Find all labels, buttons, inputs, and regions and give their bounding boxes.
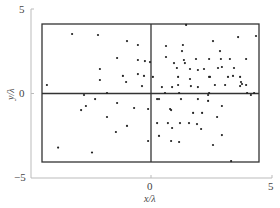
data-point <box>122 75 124 77</box>
data-point <box>170 109 172 111</box>
data-point <box>200 128 202 130</box>
data-point <box>203 68 205 70</box>
data-point <box>212 144 214 146</box>
data-point <box>197 98 199 100</box>
data-point <box>208 58 210 60</box>
data-point <box>165 45 167 47</box>
data-point <box>214 84 216 86</box>
data-point <box>46 84 48 86</box>
data-point <box>57 147 59 149</box>
data-point <box>156 122 158 124</box>
data-point <box>125 81 127 83</box>
data-point <box>197 86 199 88</box>
data-point <box>152 76 154 78</box>
data-point <box>106 92 108 94</box>
data-point <box>126 125 128 127</box>
data-point <box>230 160 232 162</box>
data-point <box>239 76 241 78</box>
data-point <box>183 59 185 61</box>
y-axis-label: y/λ <box>5 88 16 101</box>
data-point <box>209 76 211 78</box>
data-point <box>137 44 139 46</box>
data-point <box>250 94 252 96</box>
data-point <box>156 98 158 100</box>
data-point <box>137 73 139 75</box>
data-point <box>201 112 203 114</box>
data-point <box>212 40 214 42</box>
data-point <box>144 60 146 62</box>
data-point <box>253 92 255 94</box>
data-point <box>241 83 243 85</box>
x-axis-label: x/λ <box>143 193 156 204</box>
data-point <box>176 67 178 69</box>
data-point <box>192 112 194 114</box>
data-point <box>229 58 231 60</box>
data-point <box>245 84 247 86</box>
data-point <box>217 67 219 69</box>
data-point <box>106 116 108 118</box>
x-tick-label-0: 0 <box>147 180 153 192</box>
data-point <box>161 86 163 88</box>
data-point <box>158 135 160 137</box>
data-point <box>94 98 96 100</box>
data-point <box>80 109 82 111</box>
data-point <box>255 35 257 37</box>
data-point <box>99 68 101 70</box>
data-point <box>182 44 184 46</box>
data-point <box>158 98 160 100</box>
data-point <box>232 75 234 77</box>
data-point <box>237 36 239 38</box>
data-point <box>178 92 180 94</box>
data-point <box>143 75 145 77</box>
data-point <box>97 34 99 36</box>
data-point <box>126 40 128 42</box>
y-tick-label-0: 0 <box>19 87 25 99</box>
data-point <box>220 58 222 60</box>
data-point <box>85 105 87 107</box>
data-point <box>91 151 93 153</box>
data-point <box>224 84 226 86</box>
data-point <box>227 76 229 78</box>
annotation-box <box>42 24 259 162</box>
data-point <box>221 105 223 107</box>
data-point <box>219 50 221 52</box>
data-point <box>173 62 175 64</box>
data-point <box>137 59 139 61</box>
data-point <box>185 24 187 26</box>
data-point <box>181 50 183 52</box>
data-point <box>233 67 235 69</box>
data-point <box>208 92 210 94</box>
data-point <box>207 100 209 102</box>
data-point <box>197 69 199 71</box>
data-point <box>167 122 169 124</box>
data-point <box>171 127 173 129</box>
data-point <box>189 68 191 70</box>
data-point <box>141 85 143 87</box>
data-point <box>246 92 248 94</box>
data-point <box>116 57 118 59</box>
data-point <box>170 140 172 142</box>
data-point <box>99 79 101 81</box>
data-point <box>245 58 247 60</box>
data-point <box>115 131 117 133</box>
y-tick-label-5: 5 <box>19 3 25 15</box>
y-tick-label-neg5: −5 <box>14 171 26 183</box>
data-point <box>147 108 149 110</box>
data-point <box>216 116 218 118</box>
data-point <box>149 61 151 63</box>
data-point <box>189 78 191 80</box>
data-point <box>207 94 209 96</box>
scatter-chart: 5 0 −5 0 5 x/λ y/λ <box>0 0 280 208</box>
data-point <box>196 123 198 125</box>
data-point <box>116 102 118 104</box>
data-point <box>184 62 186 64</box>
data-point <box>165 56 167 58</box>
data-point <box>164 92 166 94</box>
data-point <box>177 76 179 78</box>
data-point <box>83 94 85 96</box>
data-point <box>240 81 242 83</box>
data-point <box>179 122 181 124</box>
data-point <box>180 98 182 100</box>
data-point <box>239 85 241 87</box>
data-point <box>178 141 180 143</box>
